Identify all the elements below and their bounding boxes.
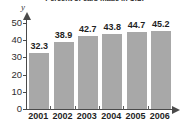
x-tick-mark [75,106,76,110]
bar [54,42,74,109]
x-tick-label: 2002 [50,112,74,121]
x-tick-mark [99,106,100,110]
y-tick-label: 30 [0,53,22,63]
bar [102,34,122,109]
y-tick-mark [23,109,27,110]
y-tick-label: 20 [0,70,22,80]
y-tick-label: 10 [0,87,22,97]
y-tick-mark [23,23,27,24]
x-axis-arrow-icon [172,106,180,114]
bar [127,32,147,109]
bar-chart: Percent of cars made in U.S. y 010203040… [0,0,189,128]
x-tick-label: 2001 [26,112,50,121]
bar [29,53,49,109]
bar [78,36,98,109]
x-tick-mark [123,106,124,110]
chart-title: Percent of cars made in U.S. [0,0,189,3]
bar-value-label: 32.3 [25,42,53,51]
y-tick-mark [23,75,27,76]
y-axis-arrow-icon [23,12,31,20]
y-axis-line [26,19,27,109]
y-tick-mark [23,40,27,41]
x-tick-label: 2005 [123,112,147,121]
y-tick-label: 0 [0,104,22,114]
y-tick-label: 50 [0,18,22,28]
y-tick-mark [23,57,27,58]
x-tick-mark [50,106,51,110]
y-axis-label: y [21,2,25,12]
x-tick-mark [148,106,149,110]
y-tick-label: 40 [0,35,22,45]
y-tick-mark [23,92,27,93]
bar [151,31,171,109]
x-tick-label: 2006 [148,112,172,121]
x-tick-label: 2004 [99,112,123,121]
bar-value-label: 45.2 [147,20,175,29]
x-tick-label: 2003 [75,112,99,121]
